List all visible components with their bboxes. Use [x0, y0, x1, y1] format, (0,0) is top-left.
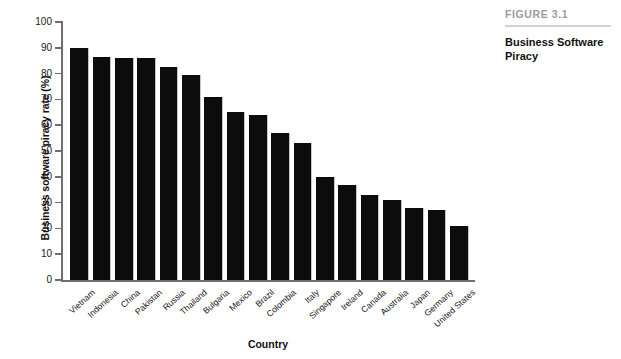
bar [160, 67, 178, 280]
y-axis-tick-label: 40 [22, 172, 52, 182]
figure-title: Business Software Piracy [505, 35, 617, 63]
figure-root: Business software piracy rate (%) 010203… [0, 0, 621, 359]
bar [227, 112, 245, 280]
bar [137, 58, 155, 280]
y-axis-tick-label: 10 [22, 249, 52, 259]
y-axis-tick-label: 0 [22, 275, 52, 285]
x-axis-title: Country [62, 338, 474, 350]
caption-divider [505, 25, 611, 27]
bar [93, 57, 111, 280]
bar [405, 208, 423, 280]
bar [115, 58, 133, 280]
bar [249, 115, 267, 280]
bar [316, 177, 334, 280]
bar [383, 200, 401, 280]
bar [70, 48, 88, 280]
caption-panel: FIGURE 3.1 Business Software Piracy [505, 8, 617, 63]
bar [294, 143, 312, 280]
y-axis-tick-label: 60 [22, 120, 52, 130]
y-axis-tick-label: 100 [22, 17, 52, 27]
figure-number: FIGURE 3.1 [505, 8, 617, 25]
x-axis-tick-label: Italy [294, 284, 312, 301]
bar [271, 133, 289, 280]
plot-area [62, 22, 474, 280]
y-axis-tick-labels: 0102030405060708090100 [18, 0, 52, 359]
bar [204, 97, 222, 280]
bar [338, 185, 356, 280]
bar [361, 195, 379, 280]
chart-panel: Business software piracy rate (%) 010203… [0, 0, 492, 359]
y-axis-tick-label: 50 [22, 146, 52, 156]
y-axis-tick-label: 80 [22, 69, 52, 79]
bar [450, 226, 468, 280]
bar [428, 210, 446, 280]
bar [182, 75, 200, 280]
y-axis-tick-label: 90 [22, 43, 52, 53]
y-axis-tick-label: 20 [22, 223, 52, 233]
y-axis-tick-label: 30 [22, 198, 52, 208]
x-axis-tick-labels: VietnamIndonesiaChinaPakistanRussiaThail… [62, 281, 474, 341]
y-axis-tick-label: 70 [22, 94, 52, 104]
